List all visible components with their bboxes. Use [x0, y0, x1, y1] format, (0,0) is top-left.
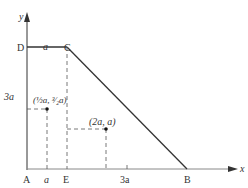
point-2a-a: [104, 127, 108, 131]
label-b: B: [184, 174, 191, 185]
label-c: C: [64, 42, 71, 53]
segment-cb: [67, 47, 187, 169]
label-point-1: (½a, ³⁄₂a): [33, 95, 67, 105]
dim-eb: 3a: [120, 174, 130, 185]
dim-ad: 3a: [3, 91, 14, 102]
x-axis-label: x: [239, 163, 245, 174]
label-d: D: [17, 42, 24, 53]
trapezoid-diagram: y x D C A E B a 3a a 3a (½a, ³⁄₂a) (2a, …: [0, 0, 248, 188]
point-half-a-three-half-a: [45, 107, 49, 111]
dim-ae-tick: a: [44, 174, 49, 185]
dim-dc: a: [43, 41, 48, 52]
label-point-2: (2a, a): [89, 116, 116, 128]
y-axis-arrow-icon: [24, 12, 30, 22]
label-a: A: [23, 174, 31, 185]
label-e: E: [63, 174, 69, 185]
x-axis-arrow-icon: [228, 166, 238, 172]
y-axis-label: y: [18, 11, 24, 22]
